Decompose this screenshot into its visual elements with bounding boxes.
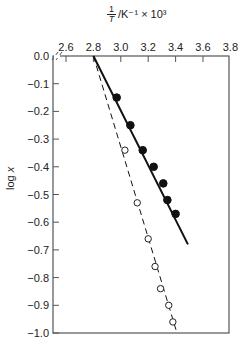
filled-circle-point (159, 180, 167, 188)
x-tick-label: 3.0 (113, 41, 128, 53)
axes-frame (52, 52, 229, 333)
y-tick-label: −0.1 (27, 78, 49, 90)
x-tick-label: 3.8 (223, 41, 238, 53)
open-circle-point (152, 263, 158, 269)
y-tick-label: −0.9 (27, 299, 49, 311)
x-tick-label: 2.8 (86, 41, 101, 53)
filled-circle-point (172, 210, 180, 218)
filled-circle-point (127, 121, 135, 129)
y-tick-label: −0.2 (27, 105, 49, 117)
open-circle-point (134, 200, 140, 206)
y-tick-label: −0.5 (27, 189, 49, 201)
open-circle-point (170, 319, 176, 325)
y-tick-label: −0.6 (27, 216, 49, 228)
y-tick-label: −0.3 (27, 133, 49, 145)
dashed-fit-line (93, 56, 177, 333)
y-tick-label: 0.0 (34, 50, 49, 62)
fit-lines (93, 56, 188, 333)
y-tick-label: −0.8 (27, 272, 49, 284)
x-tick-label: 3.4 (168, 41, 183, 53)
y-tick-label: −0.7 (27, 244, 49, 256)
y-axis-ticks: 0.0−0.1−0.2−0.3−0.4−0.5−0.6−0.7−0.8−0.9−… (27, 50, 59, 339)
x-tick-label: 3.6 (195, 41, 210, 53)
open-circle-point (122, 147, 128, 153)
open-circle-point (166, 302, 172, 308)
x-tick-label: 3.2 (141, 41, 156, 53)
x-axis-ticks: 2.62.83.03.23.43.63.8 (58, 41, 238, 62)
filled-circle-point (139, 146, 147, 154)
open-circle-point (157, 285, 163, 291)
filled-circle-point (113, 94, 121, 102)
filled-circle-point (164, 196, 172, 204)
axis-break-gap (54, 55, 60, 58)
x-tick-label: 2.6 (58, 41, 73, 53)
filled-circle-point (150, 163, 158, 171)
plot-border (53, 56, 229, 333)
y-tick-label: −1.0 (27, 327, 49, 339)
open-circle-point (145, 236, 151, 242)
plot-area: 2.62.83.03.23.43.63.8 0.0−0.1−0.2−0.3−0.… (0, 0, 245, 344)
y-tick-label: −0.4 (27, 161, 49, 173)
